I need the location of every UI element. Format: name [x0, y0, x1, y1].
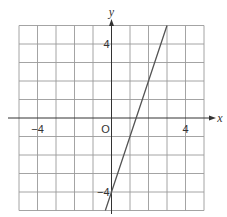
axis-labels: xyO−444−4: [31, 5, 223, 198]
y-axis-label: y: [108, 5, 115, 19]
coordinate-grid-chart: xyO−444−4: [0, 0, 227, 217]
x-tick-label: 4: [182, 123, 188, 135]
x-axis-arrow-icon: [209, 116, 216, 121]
y-axis-arrow-icon: [109, 19, 114, 26]
x-tick-label: −4: [31, 123, 44, 135]
y-tick-label: 4: [103, 38, 109, 50]
origin-label: O: [101, 123, 110, 135]
x-axis-label: x: [216, 111, 223, 125]
y-tick-label: −4: [97, 186, 110, 198]
axes: [8, 19, 216, 214]
